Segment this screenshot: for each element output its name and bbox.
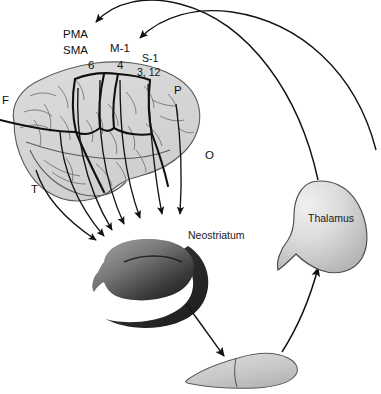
neostriatum-structure: Neostriatum	[92, 229, 244, 328]
label-parietal-lobe: P	[174, 84, 182, 96]
thalamus-label: Thalamus	[308, 212, 354, 224]
label-s1: S-1	[142, 52, 159, 64]
label-temporal-lobe: T	[31, 183, 38, 195]
nigrothalamic-arrow	[282, 268, 318, 352]
thalamus-shape	[277, 181, 366, 273]
label-frontal-lobe: F	[2, 94, 9, 106]
thalamus-structure: Thalamus	[277, 181, 366, 273]
neostriatum-label: Neostriatum	[188, 229, 245, 241]
label-area-4: 4	[117, 59, 124, 71]
brain-circuit-diagram: Neostriatum Thalamus PMA SMA 6 M-1 4	[0, 0, 381, 394]
label-area-3-12: 3, 12	[137, 66, 161, 78]
label-m1: M-1	[110, 42, 130, 54]
label-occipital-lobe: O	[205, 149, 214, 161]
label-area-6: 6	[88, 59, 94, 71]
substantia-nigra-shape	[186, 354, 298, 389]
striatonigral-arrow	[186, 304, 224, 356]
neostriatum-head	[92, 239, 194, 300]
figure-canvas: Neostriatum Thalamus PMA SMA 6 M-1 4	[0, 0, 381, 394]
label-sma: SMA	[63, 44, 88, 56]
label-pma: PMA	[63, 28, 88, 40]
substantia-nigra-structure	[186, 354, 298, 389]
